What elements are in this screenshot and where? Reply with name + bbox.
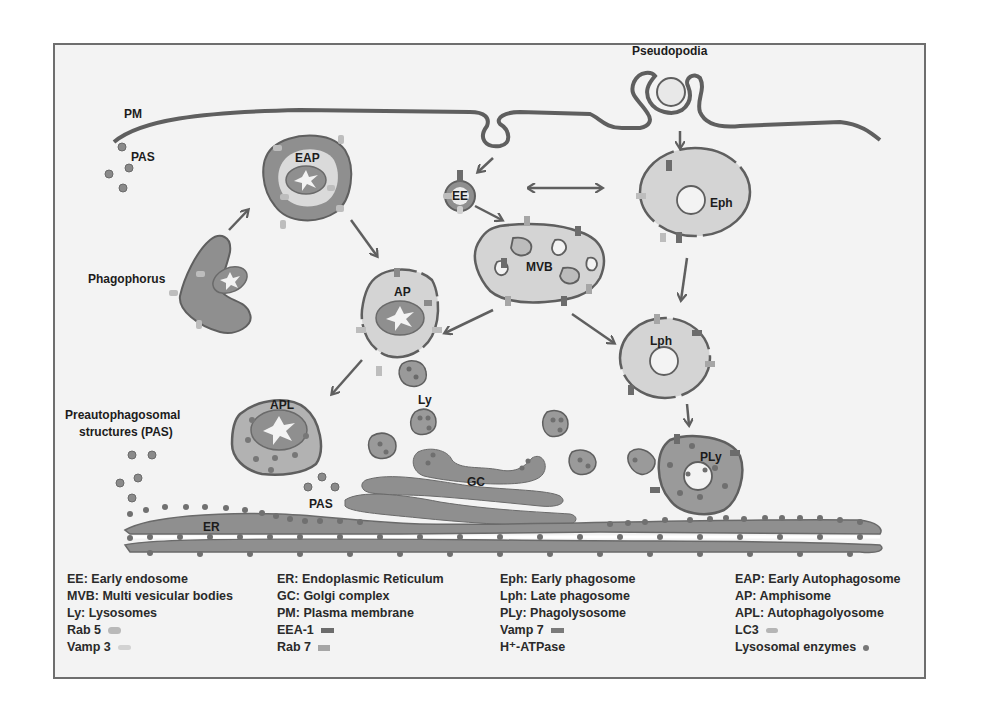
label-pseudopodia: Pseudopodia <box>632 44 708 58</box>
legend-item: MVB: Multi vesicular bodies <box>67 588 233 605</box>
label-pas-top: PAS <box>131 150 155 164</box>
legend-item-h-atpase: H⁺-ATPase <box>500 639 635 656</box>
arrow-mvb-to-lph <box>572 314 614 343</box>
vamp7-swatch-icon <box>551 628 564 633</box>
arrow-ap-to-apl <box>332 360 362 394</box>
legend-item-vamp7: Vamp 7 <box>500 622 635 639</box>
legend-item: EE: Early endosome <box>67 571 233 588</box>
label-ap: AP <box>394 285 411 299</box>
label-gc: GC <box>467 475 485 489</box>
phagophore <box>169 236 251 333</box>
label-ee: EE <box>452 189 468 203</box>
label-pas-bottom: PAS <box>309 497 333 511</box>
label-mvb: MVB <box>526 260 553 274</box>
eea1-swatch-icon <box>321 628 334 633</box>
legend-item: ER: Endoplasmic Reticulum <box>277 571 444 588</box>
label-eph: Eph <box>710 196 733 210</box>
pas-dots-top <box>105 143 133 192</box>
phagolysosome <box>650 434 742 514</box>
legend-item: Eph: Early phagosome <box>500 571 635 588</box>
legend-column-2: ER: Endoplasmic Reticulum GC: Golgi comp… <box>277 571 444 656</box>
legend-item-vamp3: Vamp 3 <box>67 639 233 656</box>
label-lph: Lph <box>650 334 672 348</box>
legend-item: Ly: Lysosomes <box>67 605 233 622</box>
arrow-pm-to-ee <box>478 158 493 172</box>
label-pm: PM <box>124 107 142 121</box>
early-phagosome <box>636 148 750 243</box>
label-eap: EAP <box>295 151 320 165</box>
legend-item: APL: Autophagolyosome <box>735 605 901 622</box>
legend-column-4: EAP: Early Autophagosome AP: Amphisome A… <box>735 571 901 656</box>
rab7-swatch-icon <box>318 645 330 651</box>
label-er: ER <box>203 520 220 534</box>
arrow-ee-to-mvb <box>475 206 502 220</box>
lysosome <box>399 361 426 387</box>
arrow-mvb-to-ap <box>445 310 493 333</box>
arrow-lph-to-ply <box>687 404 689 425</box>
label-ly: Ly <box>418 393 432 407</box>
legend-column-1: EE: Early endosome MVB: Multi vesicular … <box>67 571 233 656</box>
arrow-phagophore-to-eap <box>229 210 248 230</box>
label-preautophagosomal-line2: structures (PAS) <box>79 425 173 439</box>
legend-item-rab5: Rab 5 <box>67 622 233 639</box>
legend-item: Lph: Late phagosome <box>500 588 635 605</box>
plasma-membrane <box>114 73 880 146</box>
label-apl: APL <box>270 398 294 412</box>
rab5-swatch-icon <box>108 627 121 634</box>
label-phagophorus: Phagophorus <box>88 272 166 286</box>
legend-item: GC: Golgi complex <box>277 588 444 605</box>
legend-item-eea1: EEA-1 <box>277 622 444 639</box>
lysosomes <box>369 409 655 474</box>
vamp3-swatch-icon <box>118 645 131 650</box>
lysosomal-enzyme-dot-icon <box>863 645 869 651</box>
legend-item: PLy: Phagolysosome <box>500 605 635 622</box>
label-preautophagosomal-line1: Preautophagosomal <box>65 408 180 422</box>
arrow-eph-to-lph <box>681 258 687 300</box>
legend-item-lysosomal-enzymes: Lysosomal enzymes <box>735 639 901 656</box>
legend-column-3: Eph: Early phagosome Lph: Late phagosome… <box>500 571 635 656</box>
phagocytosed-particle <box>657 78 685 106</box>
late-phagosome <box>620 314 715 398</box>
lc3-swatch-icon <box>766 628 778 633</box>
legend-item: EAP: Early Autophagosome <box>735 571 901 588</box>
arrow-eap-to-ap <box>351 220 377 256</box>
legend-item-lc3: LC3 <box>735 622 901 639</box>
early-autophagosome <box>263 135 351 229</box>
legend-item-rab7: Rab 7 <box>277 639 444 656</box>
label-ply: PLy <box>700 450 722 464</box>
legend-item: AP: Amphisome <box>735 588 901 605</box>
legend-item: PM: Plasma membrane <box>277 605 444 622</box>
golgi-complex <box>345 449 576 526</box>
